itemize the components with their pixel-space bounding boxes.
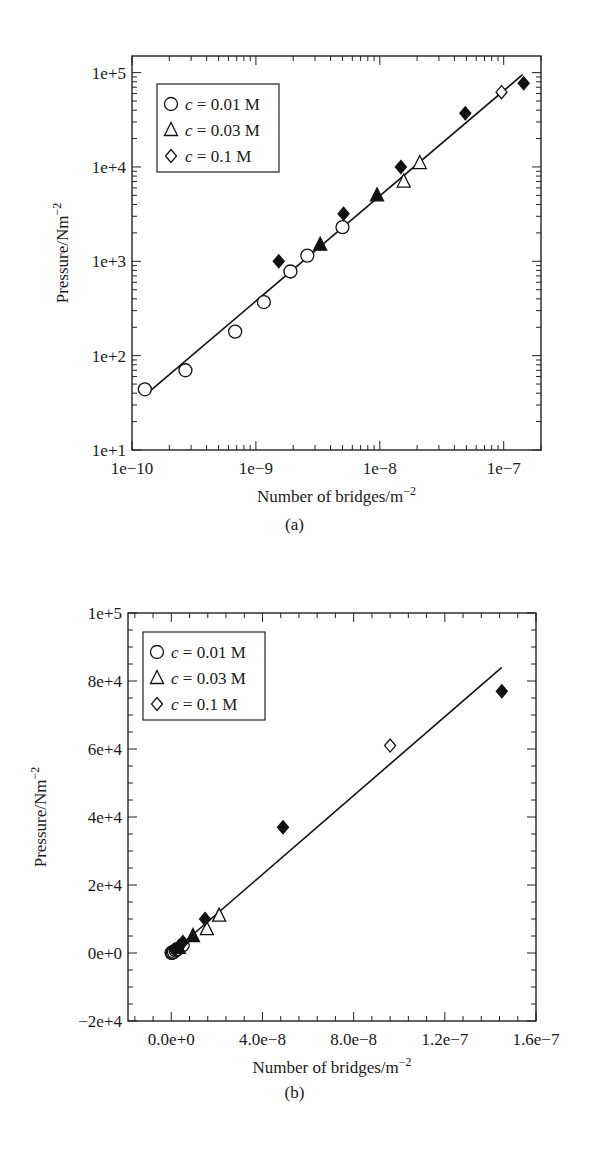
legend-label: c = 0.1 M bbox=[185, 147, 251, 166]
x-tick-label: 8.0e−8 bbox=[330, 1030, 377, 1049]
y-tick-label: 2e+4 bbox=[88, 876, 123, 895]
y-tick-label: 6e+4 bbox=[88, 740, 123, 759]
y-tick-label: 0e+0 bbox=[88, 944, 122, 963]
chart-b-linear-pressure-vs-bridges: 0.0e+04.0e−88.0e−81.2e−71.6e−7−2e+40e+02… bbox=[0, 560, 589, 1157]
data-point-diamond-filled bbox=[460, 107, 471, 120]
x-tick-label: 4.0e−8 bbox=[239, 1030, 286, 1049]
y-tick-label: 1e+4 bbox=[92, 158, 127, 177]
y-axis-label: Pressure/Nm−2 bbox=[50, 203, 72, 304]
data-point-circle-open bbox=[257, 296, 270, 309]
x-tick-label: 1e−9 bbox=[239, 459, 273, 478]
x-tick-label: 1.2e−7 bbox=[421, 1030, 468, 1049]
data-point-diamond-filled bbox=[200, 913, 211, 926]
y-tick-label: 1e+2 bbox=[92, 347, 126, 366]
x-tick-label: 1e−8 bbox=[363, 459, 397, 478]
legend: c = 0.01 Mc = 0.03 Mc = 0.1 M bbox=[143, 632, 265, 720]
x-tick-label: 1.6e−7 bbox=[513, 1030, 560, 1049]
data-point-diamond-filled bbox=[496, 685, 507, 698]
data-point-triangle-open bbox=[213, 908, 226, 921]
legend-marker-circle-open bbox=[165, 98, 178, 111]
y-tick-label: 1e+1 bbox=[92, 441, 126, 460]
data-point-circle-open bbox=[301, 249, 314, 262]
legend-label: c = 0.01 M bbox=[171, 643, 246, 662]
y-axis-label: Pressure/Nm−2 bbox=[28, 767, 50, 868]
x-axis-label: Number of bridges/m−2 bbox=[252, 1055, 411, 1077]
legend-label: c = 0.03 M bbox=[171, 669, 246, 688]
data-point-diamond-filled bbox=[338, 207, 349, 220]
data-point-triangle-open bbox=[397, 174, 410, 187]
y-tick-label: 1e+5 bbox=[88, 604, 122, 623]
data-point-circle-open bbox=[229, 325, 242, 338]
data-point-diamond-filled bbox=[395, 160, 406, 173]
legend-label: c = 0.1 M bbox=[171, 695, 237, 714]
x-tick-label: 1e−7 bbox=[487, 459, 522, 478]
data-point-circle-open bbox=[138, 383, 151, 396]
chart-a-log-log-pressure-vs-bridges: 1e−101e−91e−81e−71e+11e+21e+31e+41e+5Num… bbox=[0, 0, 589, 545]
x-tick-label: 0.0e+0 bbox=[148, 1030, 195, 1049]
legend: c = 0.01 Mc = 0.03 Mc = 0.1 M bbox=[157, 84, 279, 172]
chart-a-plot: 1e−101e−91e−81e−71e+11e+21e+31e+41e+5Num… bbox=[0, 0, 589, 510]
legend-label: c = 0.03 M bbox=[185, 121, 260, 140]
chart-a-caption: (a) bbox=[0, 515, 589, 535]
data-point-diamond-open bbox=[385, 739, 396, 752]
legend-label: c = 0.01 M bbox=[185, 95, 260, 114]
data-point-circle-open bbox=[336, 221, 349, 234]
data-point-diamond-filled bbox=[273, 255, 284, 268]
data-point-diamond-filled bbox=[518, 77, 529, 90]
x-tick-label: 1e−10 bbox=[111, 459, 154, 478]
x-axis-label: Number of bridges/m−2 bbox=[257, 484, 416, 506]
y-tick-label: −2e+4 bbox=[78, 1012, 122, 1031]
legend-marker-circle-open bbox=[151, 646, 164, 659]
data-point-circle-open bbox=[284, 265, 297, 278]
data-point-diamond-filled bbox=[277, 821, 288, 834]
data-points bbox=[165, 685, 507, 960]
chart-b-caption: (b) bbox=[0, 1083, 589, 1103]
y-tick-label: 8e+4 bbox=[88, 672, 123, 691]
y-tick-label: 1e+5 bbox=[92, 64, 126, 83]
y-tick-label: 4e+4 bbox=[88, 808, 123, 827]
chart-b-plot: 0.0e+04.0e−88.0e−81.2e−71.6e−7−2e+40e+02… bbox=[0, 560, 589, 1080]
data-point-circle-open bbox=[179, 364, 192, 377]
y-tick-label: 1e+3 bbox=[92, 252, 126, 271]
